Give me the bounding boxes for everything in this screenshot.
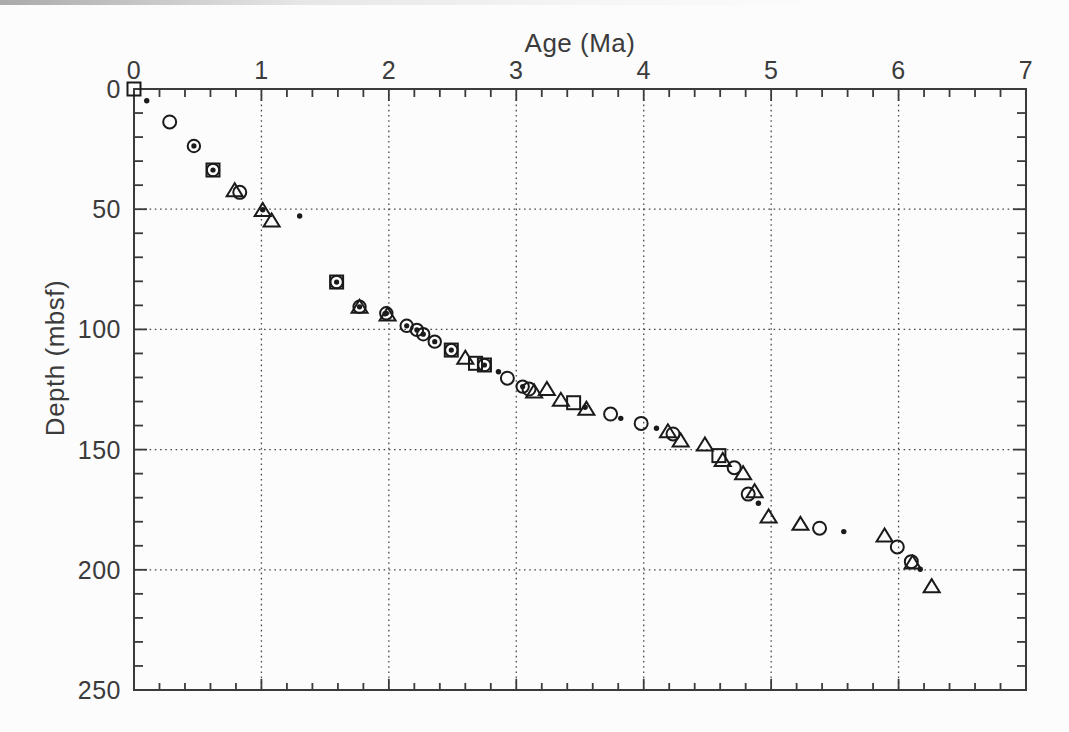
- marker-small-filled-dot: [496, 369, 501, 374]
- y-tick-label: 250: [78, 676, 121, 704]
- marker-small-filled-dot: [260, 207, 265, 212]
- plot-frame: [134, 89, 1026, 690]
- x-tick-label: 6: [891, 56, 905, 84]
- marker-small-filled-dot: [918, 567, 923, 572]
- x-axis-title: Age (Ma): [525, 28, 636, 59]
- y-tick-label: 200: [78, 556, 121, 584]
- marker-circle-with-center-dot: [432, 339, 437, 344]
- marker-small-filled-dot: [654, 426, 659, 431]
- marker-circle-with-center-dot: [357, 304, 362, 309]
- y-tick-label: 100: [78, 315, 121, 343]
- marker-small-filled-dot: [582, 405, 587, 410]
- x-tick-label: 0: [127, 56, 141, 84]
- marker-small-filled-dot: [297, 213, 302, 218]
- marker-circle-with-center-dot: [421, 332, 426, 337]
- marker-small-filled-dot: [841, 529, 846, 534]
- age-depth-figure: 01234567050100150200250 Age (Ma) Depth (…: [0, 0, 1069, 732]
- marker-open-circle: [891, 540, 904, 553]
- x-tick-label: 2: [382, 56, 396, 84]
- marker-open-circle: [813, 522, 826, 535]
- marker-open-circle: [604, 408, 617, 421]
- marker-circle-with-center-dot: [404, 323, 409, 328]
- marker-open-circle: [501, 372, 514, 385]
- marker-open-circle: [635, 417, 648, 430]
- marker-open-triangle: [539, 382, 555, 395]
- marker-open-square: [567, 396, 580, 409]
- y-axis-title: Depth (mbsf): [40, 280, 71, 436]
- x-tick-label: 4: [637, 56, 651, 84]
- marker-circle-with-center-dot: [210, 167, 215, 172]
- marker-open-triangle: [877, 528, 893, 541]
- marker-small-filled-dot: [382, 311, 387, 316]
- marker-circle-with-center-dot: [449, 347, 454, 352]
- x-tick-label: 1: [254, 56, 268, 84]
- marker-small-filled-dot: [618, 416, 623, 421]
- marker-small-filled-dot: [144, 98, 149, 103]
- y-tick-label: 50: [92, 195, 121, 223]
- marker-open-triangle: [697, 438, 713, 451]
- y-tick-label: 0: [107, 75, 121, 103]
- x-tick-label: 3: [509, 56, 523, 84]
- y-tick-label: 150: [78, 436, 121, 464]
- marker-open-triangle: [924, 579, 940, 592]
- x-tick-label: 7: [1019, 56, 1033, 84]
- marker-open-circle: [163, 115, 176, 128]
- age-depth-chart: 01234567050100150200250: [0, 0, 1069, 732]
- marker-circle-with-center-dot: [334, 279, 339, 284]
- marker-circle-with-center-dot: [482, 362, 487, 367]
- marker-small-filled-dot: [756, 501, 761, 506]
- x-tick-label: 5: [764, 56, 778, 84]
- marker-open-triangle: [761, 509, 777, 522]
- marker-circle-with-center-dot: [520, 384, 525, 389]
- marker-open-triangle: [792, 517, 808, 530]
- marker-circle-with-center-dot: [191, 143, 196, 148]
